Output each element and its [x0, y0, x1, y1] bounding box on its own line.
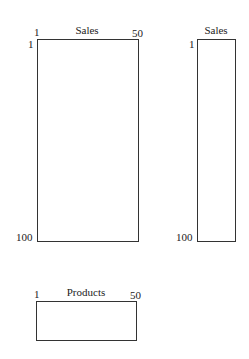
products-vector-col-start: 1 — [34, 289, 40, 300]
products-vector-box — [36, 301, 137, 341]
sales-matrix-row-end: 100 — [16, 232, 33, 243]
sales-matrix-col-start: 1 — [34, 27, 40, 38]
products-vector-col-end: 50 — [130, 290, 141, 301]
sales-matrix-box — [37, 39, 139, 242]
sales-matrix-row-start: 1 — [28, 39, 34, 50]
sales-matrix-col-end: 50 — [132, 28, 143, 39]
sales-vector-row-start: 1 — [189, 39, 195, 50]
products-vector-title: Products — [67, 287, 106, 298]
sales-vector-box — [197, 39, 236, 242]
sales-matrix-title: Sales — [75, 25, 98, 36]
sales-vector-row-end: 100 — [176, 232, 193, 243]
sales-vector-title: Sales — [204, 25, 227, 36]
